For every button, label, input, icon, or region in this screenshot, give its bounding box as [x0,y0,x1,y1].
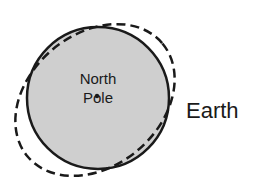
north-pole-label-line2: Pole [70,89,126,106]
diagram-graphics [0,0,253,180]
north-pole-label: North Pole [70,70,126,106]
north-pole-label-line1: North [70,70,126,87]
tidal-bulge-diagram: North Pole Earth [0,0,253,180]
earth-label: Earth [186,98,239,124]
